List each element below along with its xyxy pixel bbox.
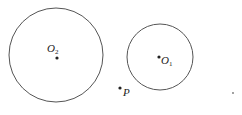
- label-o1: O1: [161, 54, 173, 68]
- point-p: [118, 86, 121, 89]
- stray-dot: [232, 92, 234, 94]
- label-p: P: [122, 86, 130, 98]
- center-point-o2: [55, 56, 58, 59]
- geometry-diagram: O2 O1 P: [0, 0, 242, 115]
- label-o2: O2: [47, 42, 59, 56]
